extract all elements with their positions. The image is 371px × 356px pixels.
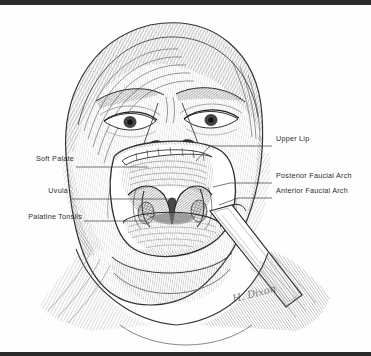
oral-cavity-figure: Soft Palate Uvula Palatine Tonsils Upper… xyxy=(0,0,371,356)
label-upper-lip: Upper Lip xyxy=(276,134,309,143)
label-anterior-faucial-arch: Anterior Faucial Arch xyxy=(276,186,348,195)
label-palatine-tonsils: Palatine Tonsils xyxy=(0,212,82,221)
bottom-rule xyxy=(0,352,371,356)
label-soft-palate: Soft Palate xyxy=(0,154,74,163)
label-uvula: Uvula xyxy=(0,186,68,195)
label-posterior-faucial-arch: Posterior Faucial Arch xyxy=(276,171,352,180)
